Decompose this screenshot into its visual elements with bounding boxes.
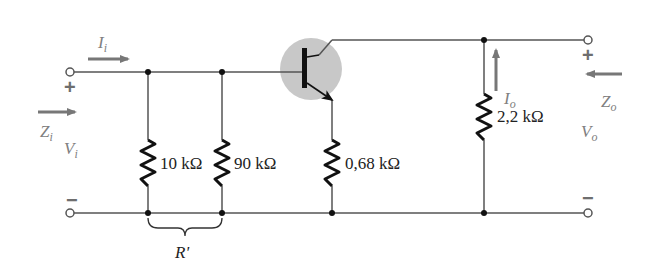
output-terminal-bottom [584,209,592,217]
re-label: 0,68 kΩ [345,155,400,172]
zo-label: Zo [601,93,616,110]
resistor-re [325,140,339,186]
node [219,210,225,216]
zi-label: Zi [40,123,53,140]
rl-label: 2,2 kΩ [497,108,544,125]
node [145,210,151,216]
input-minus-sign: − [66,190,78,210]
node [145,69,151,75]
vo-label: Vo [581,123,597,140]
r-prime-label: R' [175,244,189,261]
resistor-r1 [141,140,155,186]
node [481,37,487,43]
ii-label: Ii [98,34,107,51]
io-label: Io [504,90,516,107]
vi-label: Vi [64,140,78,157]
node [219,69,225,75]
transistor-base [302,48,307,88]
output-plus-sign: + [582,45,594,65]
resistor-rl [477,94,491,140]
r2-label: 90 kΩ [234,155,276,172]
circuit-diagram: + − + − Ii Zi Vi Io Zo Vo 10 kΩ 90 kΩ 0,… [0,0,652,276]
output-minus-sign: − [582,188,594,208]
node [481,210,487,216]
transistor-highlight [280,38,342,100]
output-terminal-top [584,36,592,44]
node [329,210,335,216]
r1-label: 10 kΩ [160,155,202,172]
r-prime-bracket [148,218,222,236]
resistor-r2 [215,140,229,186]
input-plus-sign: + [64,77,76,97]
input-terminal-top [66,68,74,76]
